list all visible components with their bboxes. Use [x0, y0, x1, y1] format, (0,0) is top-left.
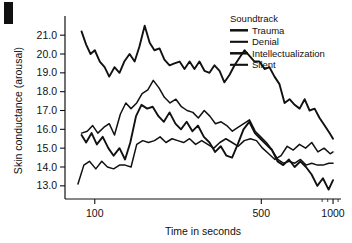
chart-legend: SoundtrackTraumaDenialIntellectualizatio… — [230, 13, 325, 70]
x-tick-label: 100 — [86, 207, 104, 219]
y-tick-label: 15.0 — [37, 142, 58, 154]
legend-label-trauma: Trauma — [252, 25, 285, 36]
legend-label-denial: Denial — [252, 36, 279, 47]
y-tick-label: 17.0 — [37, 104, 58, 116]
y-tick-label: 13.0 — [37, 179, 58, 191]
x-tick-label: 1000 — [321, 207, 345, 219]
axis-labels-layer: 13.014.015.016.017.018.019.020.021.01005… — [12, 29, 345, 237]
y-tick-label: 14.0 — [37, 161, 58, 173]
y-tick-label: 20.0 — [37, 48, 58, 60]
y-tick-label: 16.0 — [37, 123, 58, 135]
line-chart: 13.014.015.016.017.018.019.020.021.01005… — [0, 0, 352, 243]
legend-title: Soundtrack — [230, 13, 278, 24]
figure-container: 13.014.015.016.017.018.019.020.021.01005… — [0, 0, 352, 243]
series-line-denial — [82, 80, 334, 165]
y-tick-label: 18.0 — [37, 85, 58, 97]
y-tick-label: 19.0 — [37, 66, 58, 78]
series-line-trauma — [82, 26, 334, 139]
y-axis-title: Skin conductance (arousal) — [12, 47, 24, 174]
legend-label-silent: Silent — [252, 59, 276, 70]
axes-layer — [60, 16, 341, 204]
x-tick-label: 500 — [253, 207, 271, 219]
legend-label-intellectualization: Intellectualization — [252, 48, 325, 59]
x-axis-title: Time in seconds — [165, 225, 241, 237]
series-line-silent — [78, 137, 333, 184]
y-tick-label: 21.0 — [37, 29, 58, 41]
